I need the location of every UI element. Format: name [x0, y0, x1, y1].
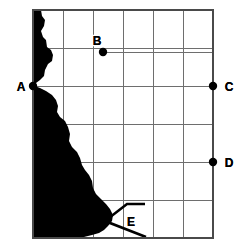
point-label-a: A	[17, 80, 26, 94]
point-marker-a	[29, 82, 37, 90]
point-label-e: E	[127, 215, 135, 229]
point-label-b: B	[93, 34, 102, 48]
point-marker-d	[209, 158, 217, 166]
point-label-d: D	[225, 156, 234, 170]
point-label-c: C	[225, 80, 234, 94]
point-marker-b	[99, 48, 107, 56]
point-marker-c	[209, 82, 217, 90]
grid-map-figure: AABBCCDDEE	[0, 0, 244, 246]
map-canvas: AABBCCDDEE	[0, 0, 244, 246]
